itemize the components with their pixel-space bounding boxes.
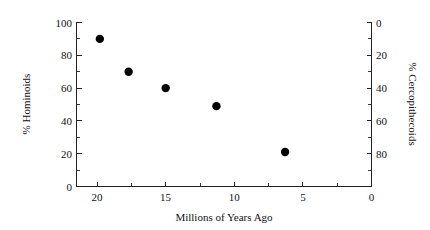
x-tick-label: 15 — [160, 191, 172, 203]
data-point — [212, 102, 220, 110]
x-tick-label: 5 — [300, 191, 306, 203]
x-axis-ticks — [97, 182, 372, 187]
data-points-layer — [96, 35, 290, 157]
y-left-tick-label: 60 — [61, 82, 73, 94]
y-axis-left-ticks — [77, 23, 82, 187]
x-tick-label: 0 — [369, 191, 375, 203]
y-axis-right-tick-labels: 0 20 40 60 80 — [376, 17, 388, 160]
y-left-tick-label: 0 — [67, 181, 73, 193]
y-axis-left-tick-labels: 0 20 40 60 80 100 — [56, 17, 73, 193]
y-left-tick-label: 20 — [61, 148, 73, 160]
x-axis-tick-labels: 20 15 10 5 0 — [92, 191, 375, 203]
y-right-tick-label: 0 — [376, 17, 382, 29]
y-left-tick-label: 100 — [56, 17, 73, 29]
y-right-tick-label: 20 — [376, 49, 388, 61]
y-axis-right-title: % Cercopithecoids — [407, 62, 419, 145]
data-point — [281, 148, 289, 156]
y-right-tick-label: 60 — [376, 115, 388, 127]
data-point — [96, 35, 104, 43]
data-point — [161, 84, 169, 92]
y-left-tick-label: 80 — [61, 49, 73, 61]
y-right-tick-label: 40 — [376, 82, 388, 94]
x-tick-label: 20 — [92, 191, 104, 203]
y-axis-left-title: % Hominoids — [20, 74, 32, 135]
scatter-plot-canvas: 0 20 40 60 80 100 % Hominoids 0 20 40 60 — [0, 0, 430, 230]
chart-figure: 0 20 40 60 80 100 % Hominoids 0 20 40 60 — [0, 0, 430, 230]
data-point — [124, 68, 132, 76]
y-axis-right-ticks — [367, 23, 372, 171]
y-left-tick-label: 40 — [61, 115, 73, 127]
x-axis-title: Millions of Years Ago — [175, 211, 273, 223]
x-tick-label: 10 — [229, 191, 241, 203]
y-right-tick-label: 80 — [376, 148, 388, 160]
axes-lines — [77, 22, 372, 187]
